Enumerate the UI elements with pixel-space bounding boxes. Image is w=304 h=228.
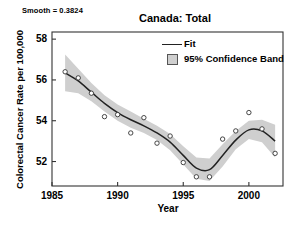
- data-point: [155, 141, 159, 145]
- legend-item-fit: Fit: [160, 38, 284, 50]
- x-tick-label: 2000: [226, 191, 272, 201]
- data-point: [168, 134, 172, 138]
- legend-label-fit: Fit: [184, 38, 196, 50]
- chart-figure: Smooth = 0.3824 Canada: Total Colorectal…: [0, 0, 304, 228]
- data-point: [115, 112, 119, 116]
- chart-legend: Fit 95% Confidence Band: [160, 38, 284, 68]
- data-point: [129, 131, 133, 135]
- fit-line: [65, 73, 275, 171]
- data-point: [194, 175, 198, 179]
- data-point: [76, 76, 80, 80]
- data-point: [220, 137, 224, 141]
- data-point: [234, 129, 238, 133]
- legend-line-icon: [160, 38, 184, 50]
- data-point: [273, 151, 277, 155]
- confidence-band: [65, 54, 275, 180]
- legend-item-confidence-band: 95% Confidence Band: [160, 53, 284, 65]
- data-point: [89, 91, 93, 95]
- y-tick-label: 56: [25, 75, 47, 85]
- data-point: [207, 175, 211, 179]
- x-tick-label: 1990: [95, 191, 141, 201]
- data-point: [260, 127, 264, 131]
- data-point: [63, 70, 67, 74]
- y-tick-label: 54: [25, 116, 47, 126]
- data-point: [181, 160, 185, 164]
- data-point: [247, 110, 251, 114]
- legend-swatch-icon: [160, 53, 184, 65]
- legend-label-confidence-band: 95% Confidence Band: [184, 53, 284, 65]
- data-point: [142, 115, 146, 119]
- x-tick-label: 1995: [160, 191, 206, 201]
- data-point: [102, 114, 106, 118]
- x-tick-label: 1985: [29, 191, 75, 201]
- y-tick-label: 58: [25, 34, 47, 44]
- y-tick-label: 52: [25, 157, 47, 167]
